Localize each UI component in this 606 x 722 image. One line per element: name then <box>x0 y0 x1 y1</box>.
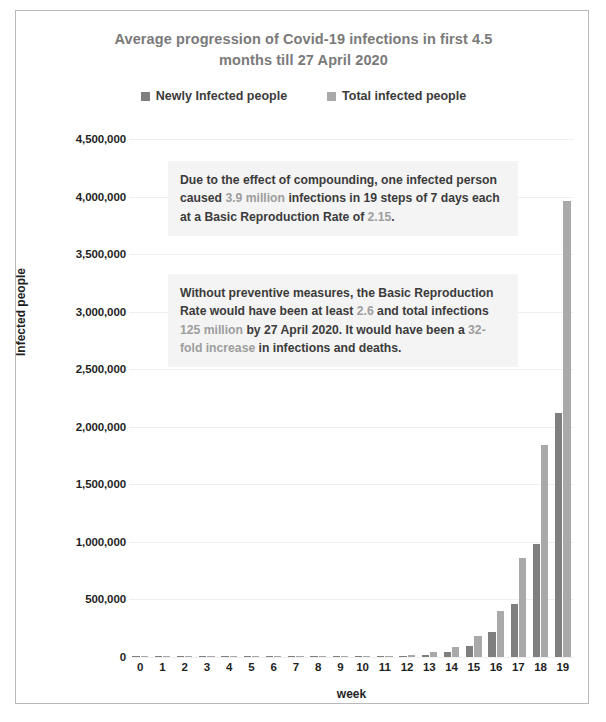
chart-title-line-1: Average progression of Covid-19 infectio… <box>56 29 551 50</box>
bar-newly-infected[interactable] <box>377 656 384 657</box>
bar-newly-infected[interactable] <box>266 656 273 657</box>
page-title: Average progression of Covid-19 infectio… <box>56 29 551 71</box>
bar-total-infected[interactable] <box>341 656 348 657</box>
bar-newly-infected[interactable] <box>177 656 184 657</box>
annotation-compounding: Due to the effect of compounding, one in… <box>168 161 518 236</box>
y-axis-tick-label: 0 <box>120 651 126 663</box>
x-axis-tick-label: 6 <box>270 661 276 673</box>
bar-newly-infected[interactable] <box>555 413 562 657</box>
x-axis-tick-label: 18 <box>534 661 547 673</box>
y-axis-tick-label: 3,000,000 <box>76 306 126 318</box>
y-axis-tick-label: 4,000,000 <box>76 191 126 203</box>
bar-total-infected[interactable] <box>363 656 370 657</box>
legend-swatch-icon <box>327 92 336 101</box>
bar-total-infected[interactable] <box>274 656 281 657</box>
bar-newly-infected[interactable] <box>333 656 340 657</box>
bar-newly-infected[interactable] <box>488 632 495 657</box>
y-axis-tick-label: 2,500,000 <box>76 363 126 375</box>
bar-newly-infected[interactable] <box>132 656 139 657</box>
bar-newly-infected[interactable] <box>533 544 540 657</box>
annotation-highlight: 2.15 <box>368 210 392 224</box>
x-axis-tick-label: 12 <box>401 661 414 673</box>
bar-newly-infected[interactable] <box>444 652 451 657</box>
bar-newly-infected[interactable] <box>288 656 295 657</box>
legend-item-label: Total infected people <box>342 89 466 103</box>
bar-newly-infected[interactable] <box>466 646 473 657</box>
bar-total-infected[interactable] <box>541 445 548 657</box>
bar-total-infected[interactable] <box>141 656 148 657</box>
bar-total-infected[interactable] <box>319 656 326 657</box>
x-axis-tick-label: 14 <box>445 661 458 673</box>
y-axis-labels: 0500,0001,000,0001,500,0002,000,0002,500… <box>46 131 126 665</box>
chart-frame: Average progression of Covid-19 infectio… <box>15 10 589 704</box>
bar-total-infected[interactable] <box>296 656 303 657</box>
y-axis-tick-label: 3,500,000 <box>76 248 126 260</box>
x-axis-title: week <box>129 687 574 701</box>
bar-total-infected[interactable] <box>474 636 481 657</box>
bar-total-infected[interactable] <box>408 655 415 657</box>
x-axis-tick-label: 3 <box>204 661 210 673</box>
annotation-highlight: 2.6 <box>357 304 374 318</box>
bar-total-infected[interactable] <box>230 656 237 657</box>
bar-newly-infected[interactable] <box>310 656 317 657</box>
bar-newly-infected[interactable] <box>355 656 362 657</box>
legend-item[interactable]: Newly Infected people <box>141 89 287 103</box>
y-axis-tick-label: 500,000 <box>85 593 126 605</box>
x-axis-tick-label: 16 <box>490 661 503 673</box>
y-axis-tick-label: 2,000,000 <box>76 421 126 433</box>
annotation-highlight: 125 million <box>180 323 243 337</box>
x-axis-tick-label: 10 <box>356 661 369 673</box>
annotation-text: . <box>391 210 394 224</box>
bar-total-infected[interactable] <box>452 647 459 657</box>
chart-legend: Newly Infected peopleTotal infected peop… <box>56 89 551 103</box>
y-axis-tick-label: 4,500,000 <box>76 133 126 145</box>
annotation-text: and total infections <box>374 304 489 318</box>
x-axis-tick-label: 1 <box>159 661 165 673</box>
bar-total-infected[interactable] <box>207 656 214 657</box>
annotation-text: in infections and deaths. <box>255 341 401 355</box>
bar-newly-infected[interactable] <box>399 656 406 657</box>
bar-total-infected[interactable] <box>563 201 570 657</box>
bar-newly-infected[interactable] <box>244 656 251 657</box>
bar-group[interactable] <box>555 139 571 657</box>
x-axis-tick-label: 2 <box>181 661 187 673</box>
annotation-text: by 27 April 2020. It would have been a <box>243 323 468 337</box>
bar-newly-infected[interactable] <box>199 656 206 657</box>
bar-group[interactable] <box>533 139 549 657</box>
x-axis-tick-label: 7 <box>293 661 299 673</box>
x-axis-tick-label: 0 <box>137 661 143 673</box>
y-axis-tick-label: 1,000,000 <box>76 536 126 548</box>
y-axis-title: Infected people <box>14 268 28 356</box>
legend-swatch-icon <box>141 92 150 101</box>
bar-total-infected[interactable] <box>519 558 526 657</box>
x-axis-labels: 012345678910111213141516171819 <box>129 661 574 679</box>
x-axis-tick-label: 9 <box>337 661 343 673</box>
annotation-highlight: 3.9 million <box>225 191 285 205</box>
x-axis-tick-label: 4 <box>226 661 232 673</box>
bar-total-infected[interactable] <box>430 652 437 657</box>
bar-newly-infected[interactable] <box>155 656 162 657</box>
chart-title-line-2: months till 27 April 2020 <box>56 50 551 71</box>
x-axis-tick-label: 5 <box>248 661 254 673</box>
x-axis-tick-label: 13 <box>423 661 436 673</box>
bar-total-infected[interactable] <box>252 656 259 657</box>
bar-group[interactable] <box>132 139 148 657</box>
x-axis-tick-label: 15 <box>467 661 480 673</box>
bar-newly-infected[interactable] <box>221 656 228 657</box>
annotation-preventive-measures: Without preventive measures, the Basic R… <box>168 274 518 367</box>
bar-total-infected[interactable] <box>185 656 192 657</box>
bar-total-infected[interactable] <box>385 656 392 657</box>
x-axis-tick-label: 8 <box>315 661 321 673</box>
gridline <box>129 657 574 658</box>
legend-item[interactable]: Total infected people <box>327 89 466 103</box>
legend-item-label: Newly Infected people <box>156 89 287 103</box>
bar-total-infected[interactable] <box>163 656 170 657</box>
x-axis-tick-label: 19 <box>556 661 569 673</box>
bar-newly-infected[interactable] <box>422 655 429 657</box>
x-axis-tick-label: 11 <box>379 661 391 673</box>
bar-total-infected[interactable] <box>497 611 504 657</box>
bar-newly-infected[interactable] <box>511 604 518 657</box>
x-axis-tick-label: 17 <box>512 661 525 673</box>
y-axis-tick-label: 1,500,000 <box>76 478 126 490</box>
